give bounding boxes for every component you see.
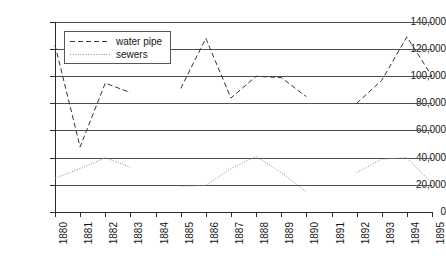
x-axis-label: 1893 — [386, 222, 396, 244]
x-axis-tick — [156, 212, 157, 217]
x-axis-label: 1890 — [310, 222, 320, 244]
x-axis-tick — [432, 212, 433, 217]
y-axis-line — [55, 22, 56, 212]
x-axis-tick — [382, 212, 383, 217]
gridline — [55, 185, 432, 186]
x-axis-label: 1892 — [361, 222, 371, 244]
legend-item-sewers: sewers — [65, 48, 170, 61]
line-chart: 140,000 120,000 100,000 80,000 60,000 40… — [0, 0, 446, 271]
x-axis-label: 1882 — [109, 222, 119, 244]
x-axis-label: 1881 — [84, 222, 94, 244]
gridline — [55, 130, 432, 131]
x-axis-label: 1880 — [59, 222, 69, 244]
x-axis-label: 1883 — [134, 222, 144, 244]
x-axis-tick — [357, 212, 358, 217]
x-axis-label: 1889 — [285, 222, 295, 244]
x-axis-tick — [206, 212, 207, 217]
x-axis-label: 1886 — [210, 222, 220, 244]
x-axis-tick — [130, 212, 131, 217]
x-axis-tick — [231, 212, 232, 217]
legend-label: sewers — [116, 50, 148, 60]
x-axis-tick — [105, 212, 106, 217]
dashed-line-swatch — [70, 41, 110, 42]
x-axis-label: 1884 — [160, 222, 170, 244]
chart-legend: water pipe sewers — [64, 31, 171, 64]
x-axis-label: 1894 — [411, 222, 421, 244]
x-axis-tick — [332, 212, 333, 217]
x-axis-tick — [256, 212, 257, 217]
x-axis-tick — [80, 212, 81, 217]
gridline — [55, 76, 432, 77]
x-axis-label: 1887 — [235, 222, 245, 244]
gridline — [55, 103, 432, 104]
x-axis-tick — [181, 212, 182, 217]
gridline — [55, 22, 432, 23]
dotted-line-swatch — [70, 54, 110, 55]
x-axis-label: 1885 — [185, 222, 195, 244]
x-axis-label: 1891 — [336, 222, 346, 244]
x-axis-label: 1888 — [260, 222, 270, 244]
x-axis-tick — [281, 212, 282, 217]
x-axis-tick — [407, 212, 408, 217]
legend-label: water pipe — [116, 37, 162, 47]
x-axis-label: 1895 — [436, 222, 446, 244]
x-axis-tick — [55, 212, 56, 217]
x-axis-line — [55, 212, 432, 213]
legend-item-water-pipe: water pipe — [65, 35, 170, 48]
gridline — [55, 158, 432, 159]
x-axis-tick — [306, 212, 307, 217]
